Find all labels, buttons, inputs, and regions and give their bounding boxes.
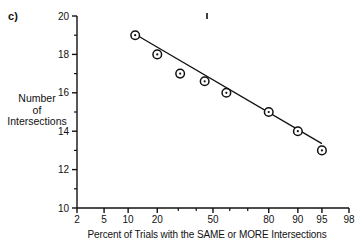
x-axis-title: Percent of Trials with the SAME or MORE …: [62, 229, 352, 240]
y-tick-label: 18: [58, 49, 70, 60]
x-tick-label: 20: [152, 214, 164, 225]
y-axis-title: Number of Intersections: [2, 93, 72, 128]
data-point-center-dot: [134, 34, 136, 36]
x-tick-label: 2: [74, 214, 80, 225]
y-tick-label: 20: [58, 11, 70, 22]
x-tick-label: 90: [292, 214, 304, 225]
y-axis-ticks: [72, 16, 77, 208]
x-tick-label: 50: [207, 214, 219, 225]
x-tick-label: 10: [123, 214, 135, 225]
x-axis-ticks: [77, 208, 349, 213]
data-point-center-dot: [225, 92, 227, 94]
data-point-center-dot: [321, 149, 323, 151]
x-axis-tick-labels: 2510205080909598: [74, 214, 355, 225]
x-tick-label: 95: [316, 214, 328, 225]
y-tick-label: 10: [58, 203, 70, 214]
data-point-center-dot: [268, 111, 270, 113]
x-tick-label: 98: [343, 214, 355, 225]
data-point-center-dot: [156, 53, 158, 55]
chart-figure: c) Number of Intersections Percent of Tr…: [0, 0, 363, 248]
panel-label: c): [8, 10, 18, 22]
x-tick-label: 5: [101, 214, 107, 225]
x-tick-label: 80: [263, 214, 275, 225]
data-point-center-dot: [179, 73, 181, 75]
data-point-center-dot: [297, 130, 299, 132]
data-point-center-dot: [204, 80, 206, 82]
y-tick-label: 12: [58, 164, 70, 175]
